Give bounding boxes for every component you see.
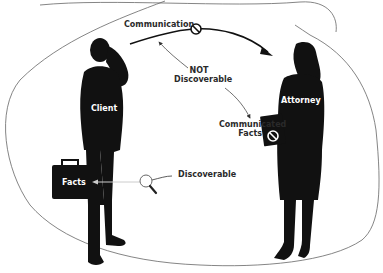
communicated-label: Communicated: [219, 120, 279, 129]
client-label: Client: [91, 104, 117, 113]
communicated-facts-label: Communicated Facts: [219, 120, 279, 138]
not-discoverable-label: NOT Discoverable: [174, 66, 224, 84]
discoverable-label-line: Discoverable: [174, 75, 224, 84]
communication-label: Communication: [124, 20, 194, 29]
diagram-canvas: [0, 0, 383, 273]
magnifying-glass-icon: [140, 175, 156, 193]
not-label: NOT: [174, 66, 224, 75]
arrowhead-icon: [260, 47, 273, 56]
facts-label-line: Facts: [219, 129, 279, 138]
facts-label: Facts: [62, 178, 86, 187]
not-discoverable-arrow-down: [225, 88, 250, 118]
client-silhouette: [52, 38, 128, 265]
attorney-label: Attorney: [281, 96, 321, 105]
attorney-silhouette: [260, 42, 324, 260]
discoverable-label: Discoverable: [178, 170, 236, 179]
not-discoverable-arrow-up: [159, 42, 188, 68]
privilege-diagram: Communication NOT Discoverable Client At…: [0, 0, 383, 273]
